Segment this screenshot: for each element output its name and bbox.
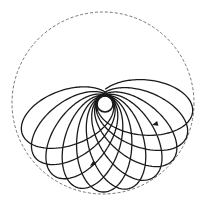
inner-circle (97, 96, 113, 112)
orbit-diagram (0, 0, 201, 200)
arrow-lower-loop-icon (89, 161, 97, 169)
boundary-circle (12, 12, 194, 194)
